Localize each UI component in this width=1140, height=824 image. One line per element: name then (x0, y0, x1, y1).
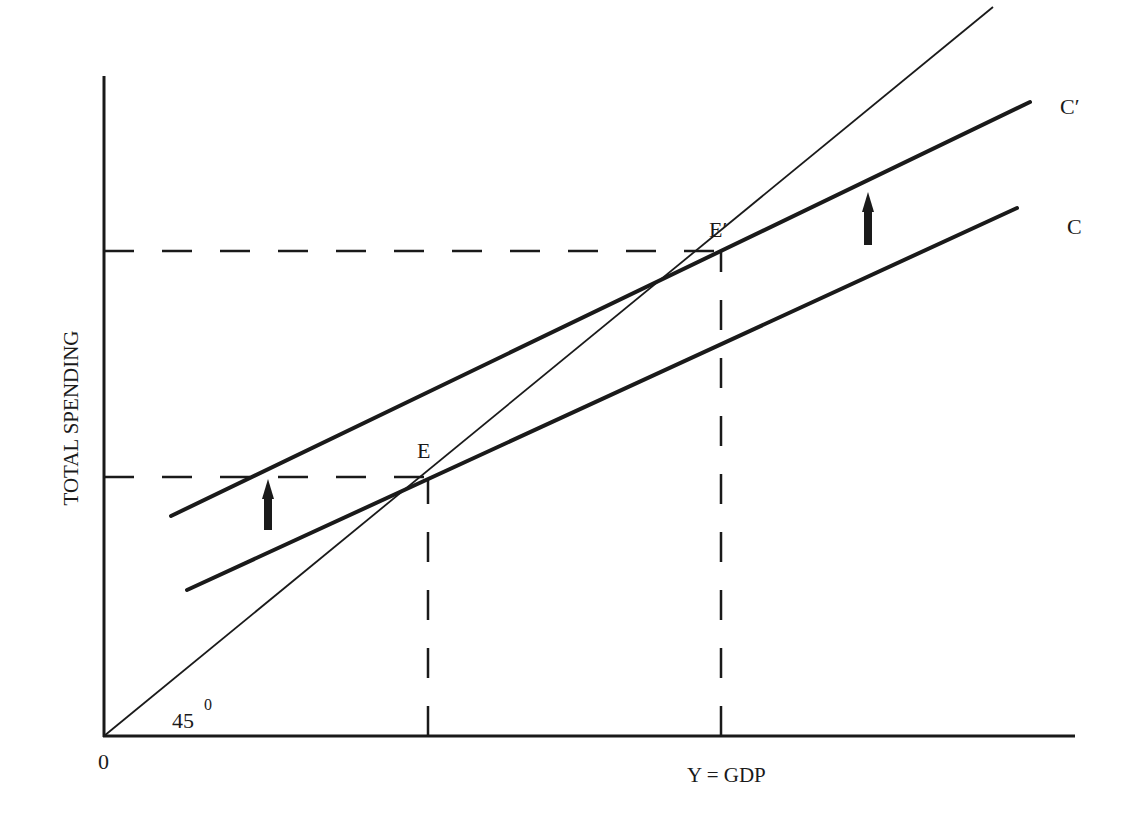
arrow-head (262, 479, 274, 499)
arrow-up-icon (864, 210, 872, 245)
shift-arrow-left (262, 479, 274, 530)
angle-label: 45 (172, 708, 194, 733)
curve-label-c: C (1067, 214, 1082, 239)
y-axis-label: TOTAL SPENDING (59, 330, 83, 505)
curve-label-c-prime: C′ (1060, 94, 1080, 119)
origin-label: 0 (98, 749, 109, 774)
arrow-head (862, 192, 874, 212)
shift-arrow-right (862, 192, 874, 245)
spending-line-c (187, 208, 1017, 590)
angle-degree-superscript: 0 (204, 696, 212, 713)
equilibrium-label-e: E (417, 438, 430, 463)
forty-five-degree-line (104, 7, 993, 736)
equilibrium-label-e-prime: E′ (709, 217, 727, 242)
spending-line-c-prime (171, 102, 1030, 516)
arrow-up-icon (264, 497, 272, 530)
x-axis-label: Y = GDP (687, 763, 766, 787)
keynesian-cross-diagram: C′ C E′ E 45 0 0 Y = GDP TOTAL SPENDING (0, 0, 1140, 824)
guide-lines (104, 251, 721, 736)
